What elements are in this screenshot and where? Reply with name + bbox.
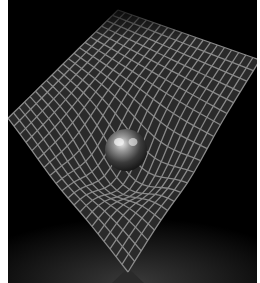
image-frame xyxy=(8,0,257,283)
top-fade xyxy=(8,0,257,40)
spacetime-grid-illustration xyxy=(8,0,257,283)
massive-sphere xyxy=(105,129,147,171)
sphere-highlight-right xyxy=(129,138,138,146)
sphere-highlight-left xyxy=(114,138,124,146)
